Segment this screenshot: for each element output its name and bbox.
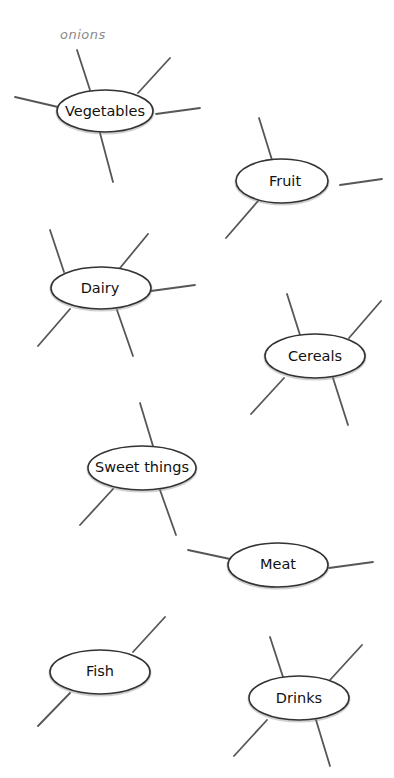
branch	[100, 133, 113, 182]
spider-diagram-canvas: Vegetables onions Fruit Dairy Cereals	[0, 0, 394, 778]
node-fish: Fish	[38, 617, 165, 726]
branch	[156, 108, 200, 114]
branch	[349, 301, 381, 338]
branch	[270, 637, 283, 677]
branch	[330, 645, 362, 680]
node-vegetables: Vegetables onions	[15, 27, 200, 182]
branch	[138, 58, 170, 93]
branch	[80, 489, 113, 525]
branch	[259, 118, 272, 160]
branch	[287, 294, 300, 335]
node-drinks: Drinks	[234, 637, 362, 766]
branch	[226, 201, 258, 238]
branch	[329, 562, 373, 568]
node-label: Meat	[260, 556, 296, 572]
node-meat: Meat	[188, 543, 373, 588]
node-label: Fish	[86, 663, 114, 679]
node-cereals: Cereals	[251, 294, 381, 425]
branch	[333, 378, 348, 425]
node-label: Drinks	[276, 690, 322, 706]
branch	[38, 693, 70, 726]
branch	[120, 234, 148, 268]
branch	[160, 490, 176, 535]
branch	[140, 403, 153, 446]
branch	[151, 285, 195, 291]
annotation-onions: onions	[60, 27, 106, 42]
node-label: Vegetables	[65, 103, 145, 119]
branch	[234, 720, 267, 756]
branch	[316, 720, 330, 766]
branch	[340, 179, 382, 185]
branch	[77, 50, 90, 90]
node-dairy: Dairy	[38, 230, 195, 356]
branch	[15, 97, 58, 107]
branch	[188, 550, 230, 559]
node-label: Fruit	[269, 173, 301, 189]
node-label: Sweet things	[95, 459, 189, 475]
node-label: Cereals	[288, 348, 342, 364]
branch	[38, 309, 70, 346]
branch	[133, 617, 165, 652]
branch	[117, 310, 133, 356]
branch	[50, 230, 64, 272]
node-fruit: Fruit	[226, 118, 382, 238]
node-sweet-things: Sweet things	[80, 403, 196, 535]
node-label: Dairy	[81, 280, 120, 296]
branch	[251, 378, 284, 414]
